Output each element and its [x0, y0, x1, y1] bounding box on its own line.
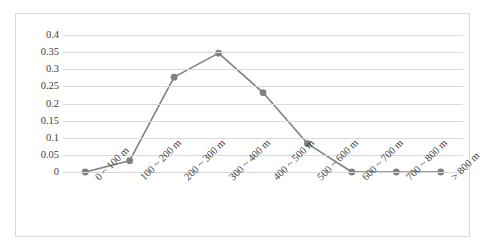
- x-tick-label-text: 500 ~ 600 m: [316, 175, 323, 182]
- gridline: [63, 172, 463, 173]
- x-tick-label-text: 400 ~ 500 m: [272, 175, 279, 182]
- y-tick-label: 0: [16, 167, 59, 178]
- y-tick-label: 0.4: [16, 30, 59, 41]
- y-tick-label: 0.3: [16, 64, 59, 75]
- chart-frame: 00.050.10.150.20.250.30.350.4 0 ~ 100 m1…: [15, 13, 470, 237]
- y-tick-label: 0.25: [16, 81, 59, 92]
- y-axis: 00.050.10.150.20.250.30.350.4: [16, 35, 59, 172]
- y-tick-label: 0.15: [16, 115, 59, 126]
- gridline: [63, 121, 463, 122]
- data-point-marker: [126, 157, 133, 164]
- x-tick-label: 0 ~ 100 m: [95, 174, 102, 181]
- x-tick-label-text: 200 ~ 300 m: [183, 175, 190, 182]
- data-point-marker: [171, 74, 178, 81]
- x-tick-label: 200 ~ 300 m: [184, 174, 191, 181]
- x-tick-label: 600 ~ 700 m: [362, 174, 369, 181]
- y-tick-label: 0.05: [16, 150, 59, 161]
- y-tick-label: 0.2: [16, 98, 59, 109]
- x-tick-label-text: 600 ~ 700 m: [360, 175, 367, 182]
- x-tick-label: 400 ~ 500 m: [273, 174, 280, 181]
- x-tick-label-text: 100 ~ 200 m: [138, 175, 145, 182]
- x-tick-label-text: 700 ~ 800 m: [405, 175, 412, 182]
- x-tick-label: 300 ~ 400 m: [229, 174, 236, 181]
- x-tick-label: > 800 m: [451, 174, 458, 181]
- x-tick-label: 100 ~ 200 m: [140, 174, 147, 181]
- gridline: [63, 86, 463, 87]
- y-tick-label: 0.1: [16, 133, 59, 144]
- y-tick-label: 0.35: [16, 47, 59, 58]
- x-tick-label: 700 ~ 800 m: [406, 174, 413, 181]
- x-tick-label-text: 300 ~ 400 m: [227, 175, 234, 182]
- data-point-marker: [260, 89, 267, 96]
- gridline: [63, 52, 463, 53]
- x-tick-label-text: > 800 m: [449, 175, 456, 182]
- x-axis: 0 ~ 100 m100 ~ 200 m200 ~ 300 m300 ~ 400…: [63, 174, 463, 234]
- x-tick-label-text: 0 ~ 100 m: [94, 175, 101, 182]
- data-point-marker: [215, 50, 222, 57]
- gridline: [63, 104, 463, 105]
- gridline: [63, 35, 463, 36]
- gridline: [63, 69, 463, 70]
- x-tick-label: 500 ~ 600 m: [317, 174, 324, 181]
